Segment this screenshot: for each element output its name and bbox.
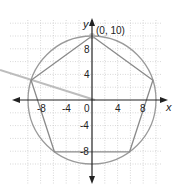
y-tick-4: 4: [84, 69, 90, 80]
point-label: (0, 10): [96, 25, 125, 36]
x-tick-0: 0: [84, 103, 90, 114]
x-tick-4: 4: [115, 103, 121, 114]
x-axis-left-arrow-icon: [12, 97, 20, 103]
y-tick-neg8: -8: [80, 146, 89, 157]
axes: [16, 20, 164, 180]
x-tick-neg8: -8: [37, 103, 46, 114]
x-tick-8: 8: [140, 103, 146, 114]
y-axis-up-arrow-icon: [89, 18, 95, 26]
y-tick-neg4: -4: [80, 120, 89, 131]
y-axis-label: y: [82, 18, 90, 30]
x-axis-label: x: [165, 101, 172, 113]
x-tick-neg4: -4: [62, 103, 71, 114]
y-tick-8: 8: [84, 44, 90, 55]
coordinate-diagram: x y (0, 10) -8 -4 0 4 8 8 4 -4 -8: [0, 0, 176, 192]
y-axis-down-arrow-icon: [89, 176, 95, 184]
